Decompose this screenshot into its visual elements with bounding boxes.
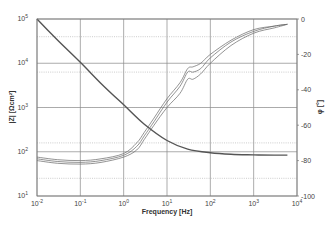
x-axis-ticks: 10-210-1100101102103104 xyxy=(31,198,303,207)
y-tick-label: 105 xyxy=(17,13,28,22)
y-axis-label: |Z| [Ωcm²] xyxy=(8,91,16,124)
series-phase xyxy=(37,24,287,162)
y-tick-label: 102 xyxy=(17,146,28,155)
y2-tick-label: -80 xyxy=(301,157,311,164)
x-tick-label: 10-1 xyxy=(74,198,86,207)
x-tick-label: 100 xyxy=(118,198,129,207)
y-tick-label: 104 xyxy=(17,57,28,66)
y2-tick-label: -40 xyxy=(301,86,311,93)
y2-tick-label: -100 xyxy=(301,193,315,200)
y-tick-label: 101 xyxy=(17,190,28,199)
y-axis-ticks: 101102103104105 xyxy=(17,13,28,199)
data-series xyxy=(37,19,287,164)
x-tick-label: 102 xyxy=(205,198,216,207)
x-tick-label: 10-2 xyxy=(31,198,43,207)
y2-tick-label: -20 xyxy=(301,51,311,58)
y2-axis-label: φ [°] xyxy=(316,100,324,114)
y2-axis-ticks: 0-20-40-60-80-100 xyxy=(297,16,315,200)
y2-tick-label: 0 xyxy=(301,16,305,23)
series-magnitude xyxy=(37,19,287,155)
x-tick-label: 103 xyxy=(248,198,259,207)
y-tick-label: 103 xyxy=(17,102,28,111)
impedance-bode-plot: 10-210-1100101102103104 101102103104105 … xyxy=(0,0,335,229)
x-axis-label: Frequency [Hz] xyxy=(142,208,193,216)
x-tick-label: 101 xyxy=(162,198,173,207)
series-phase xyxy=(37,24,287,160)
y2-tick-label: -60 xyxy=(301,122,311,129)
